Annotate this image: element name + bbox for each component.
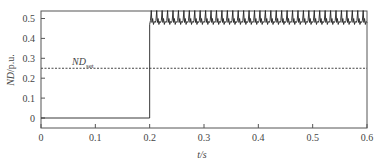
x-axis-ticks: 00.10.20.30.40.50.6 bbox=[39, 124, 374, 143]
x-tick-label: 0.5 bbox=[306, 132, 319, 143]
y-tick-label: 0.4 bbox=[23, 33, 36, 44]
y-tick-label: 0.3 bbox=[23, 53, 36, 64]
y-tick-label: 0.1 bbox=[23, 93, 36, 104]
x-tick-label: 0.6 bbox=[361, 132, 374, 143]
x-tick-label: 0 bbox=[39, 132, 44, 143]
y-axis-label: ND/p.u. bbox=[5, 54, 16, 87]
y-tick-label: 0.2 bbox=[23, 73, 36, 84]
x-tick-label: 0.4 bbox=[252, 132, 265, 143]
chart: 00.10.20.30.40.5 00.10.20.30.40.50.6 NDs… bbox=[0, 0, 381, 164]
x-axis-label: t/s bbox=[197, 149, 207, 160]
y-tick-label: 0 bbox=[30, 113, 35, 124]
y-tick-label: 0.5 bbox=[23, 13, 36, 24]
x-tick-label: 0.1 bbox=[89, 132, 102, 143]
x-tick-label: 0.2 bbox=[143, 132, 156, 143]
x-tick-label: 0.3 bbox=[198, 132, 211, 143]
